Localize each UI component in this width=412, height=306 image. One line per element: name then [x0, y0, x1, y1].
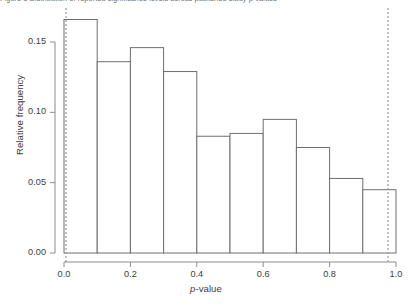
x-axis-label: p-value — [0, 283, 412, 294]
histogram-bar — [296, 148, 329, 254]
histogram-bar — [130, 48, 163, 253]
bars-group — [64, 19, 396, 253]
y-axis-tick-label: 0.00 — [14, 247, 46, 257]
y-axis-label: Relative frequency — [14, 75, 25, 155]
x-axis-label-suffix: -value — [196, 283, 222, 294]
histogram-bar — [363, 190, 396, 253]
y-axis-tick-label: 0.05 — [14, 177, 46, 187]
histogram-bar — [263, 119, 296, 253]
histogram-bar — [230, 133, 263, 253]
x-axis-tick-label: 0.8 — [314, 269, 346, 279]
histogram-bar — [197, 136, 230, 253]
histogram-bar — [64, 19, 97, 253]
histogram-figure: Figure 1 Distribution of reported signif… — [0, 0, 412, 306]
histogram-bar — [164, 72, 197, 253]
x-axis-tick-label: 0.0 — [48, 269, 80, 279]
x-axis-tick-label: 1.0 — [380, 269, 412, 279]
y-axis-tick-label: 0.15 — [14, 36, 46, 46]
histogram-svg — [0, 0, 412, 306]
plot-area: 0.000.050.100.15 0.00.20.40.60.81.0 Rela… — [0, 0, 412, 306]
x-axis-tick-label: 0.4 — [181, 269, 213, 279]
x-axis-tick-label: 0.2 — [114, 269, 146, 279]
histogram-bar — [97, 62, 130, 253]
histogram-bar — [330, 178, 363, 253]
x-axis-tick-label: 0.6 — [247, 269, 279, 279]
